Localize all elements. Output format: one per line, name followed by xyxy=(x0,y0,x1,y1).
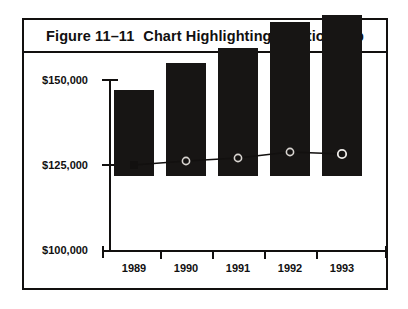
x-axis-label-1991: 1991 xyxy=(226,262,250,274)
figure-root: Figure 11–11Chart Highlighting Relations… xyxy=(0,0,408,309)
figure-number: Figure 11–11 xyxy=(46,28,134,44)
x-axis-label-1993: 1993 xyxy=(330,262,354,274)
x-axis-labels: 1989 1990 1991 1992 1993 xyxy=(24,53,386,288)
x-axis-label-1989: 1989 xyxy=(122,262,146,274)
chart-plot-area: $150,000 $125,000 $100,000 xyxy=(24,53,386,288)
x-axis-label-1992: 1992 xyxy=(278,262,302,274)
figure-frame: Figure 11–11Chart Highlighting Relations… xyxy=(22,18,388,290)
page-title: Figure 11–11Chart Highlighting Relations… xyxy=(46,28,364,44)
x-axis-label-1990: 1990 xyxy=(174,262,198,274)
